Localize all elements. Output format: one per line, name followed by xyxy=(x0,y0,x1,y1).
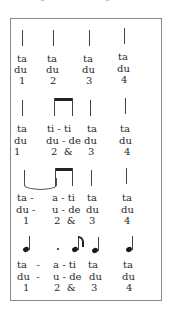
beat-number: 3 xyxy=(89,215,95,226)
syllable: ti - ti xyxy=(47,123,71,134)
syllable: du xyxy=(14,64,27,75)
syllable: ta xyxy=(17,123,27,134)
syllable: ta xyxy=(123,259,133,270)
note-stem-icon xyxy=(55,168,56,186)
syllable: ta - xyxy=(17,192,34,203)
syllable: u - de xyxy=(53,271,82,282)
syllable: du xyxy=(121,204,134,215)
syllable: du xyxy=(84,135,97,146)
syllable: a - ti xyxy=(53,259,76,270)
beat-number: 4 xyxy=(121,74,127,85)
note-stem-icon xyxy=(54,98,55,116)
beat-number: 1 xyxy=(23,215,29,226)
syllable: du xyxy=(117,63,130,74)
beat-number: 2 & xyxy=(54,282,76,293)
syllable: ta xyxy=(122,192,132,203)
rhythm-row-3: ta - a - ti ta ta du - u - de du du 1 2 … xyxy=(0,158,172,228)
syllable: du xyxy=(122,271,135,282)
beat-number: 3 xyxy=(86,75,92,86)
syllable: ta xyxy=(87,123,97,134)
note-stem-icon xyxy=(22,100,23,116)
beat-number: 4 xyxy=(126,282,132,293)
rhythm-row-1: ta ta ta ta du du du du 1 2 3 4 xyxy=(0,18,172,88)
syllable: du xyxy=(82,64,95,75)
syllable: ta xyxy=(120,123,130,134)
beat-number: 2 & xyxy=(54,215,76,226)
syllable: ta xyxy=(17,53,27,64)
syllable: du xyxy=(14,135,27,146)
note-stem-icon xyxy=(126,168,127,184)
beat-number: 2 xyxy=(50,75,56,86)
syllable: ta xyxy=(87,192,97,203)
beat-number: 3 xyxy=(91,282,97,293)
syllable: u - de xyxy=(52,204,81,215)
augmentation-dot-icon xyxy=(57,248,59,250)
beat-number: 1 xyxy=(19,75,25,86)
beat-number: 4 xyxy=(124,146,130,157)
rhythm-row-4: ta - a - ti ta ta du - u - de du du 1 2 … xyxy=(0,228,172,298)
syllable: ta xyxy=(83,53,93,64)
beat-number: 4 xyxy=(124,215,130,226)
syllable: ta xyxy=(47,53,57,64)
eighth-beam-icon xyxy=(54,98,73,101)
note-stem-icon xyxy=(125,98,126,114)
syllable: du - de xyxy=(46,135,81,146)
note-stem-icon xyxy=(89,30,90,46)
eighth-beam-icon xyxy=(55,168,73,171)
note-stem-icon xyxy=(72,98,73,116)
note-stem-icon xyxy=(132,236,133,250)
note-stem-icon xyxy=(98,237,99,251)
syllable: ta xyxy=(118,51,128,62)
note-stem-icon xyxy=(124,28,125,44)
syllable: ta xyxy=(88,259,98,270)
note-stem-icon xyxy=(29,236,30,250)
eighth-flag-icon xyxy=(78,236,84,247)
syllable: du xyxy=(46,64,59,75)
cropped-top-text xyxy=(0,0,172,6)
note-stem-icon xyxy=(91,170,92,186)
tie-icon xyxy=(24,178,57,190)
syllable: du xyxy=(89,271,102,282)
beat-number: 1 xyxy=(14,146,20,157)
syllable: du xyxy=(119,135,132,146)
beat-number: 3 xyxy=(88,146,94,157)
note-stem-icon xyxy=(72,168,73,186)
beat-number: 2 & xyxy=(51,146,73,157)
note-stem-icon xyxy=(90,100,91,116)
syllable: a - ti xyxy=(52,192,75,203)
rhythm-row-2: ta ti - ti ta ta du du - de du du 1 2 & … xyxy=(0,88,172,158)
note-stem-icon xyxy=(22,30,23,46)
syllable: du - xyxy=(17,271,40,282)
beat-number: 1 xyxy=(23,282,29,293)
note-stem-icon xyxy=(53,30,54,46)
syllable: du - xyxy=(16,204,35,215)
syllable: ta - xyxy=(17,259,40,270)
syllable: du xyxy=(86,204,99,215)
